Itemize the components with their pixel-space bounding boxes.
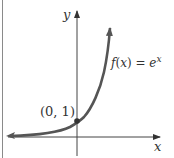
exp-graph: y x (0, 1) f(x) = ex bbox=[0, 0, 174, 158]
exp-curve bbox=[10, 28, 110, 136]
point-0-1 bbox=[74, 118, 80, 124]
x-axis-label: x bbox=[154, 139, 162, 154]
point-label: (0, 1) bbox=[40, 104, 75, 119]
y-axis-label: y bbox=[62, 7, 71, 22]
chart-figure: y x (0, 1) f(x) = ex bbox=[0, 0, 174, 158]
function-label: f(x) = ex bbox=[110, 54, 161, 70]
